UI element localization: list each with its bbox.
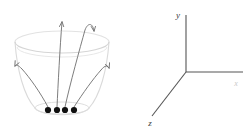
funnel-wall-left <box>15 42 35 108</box>
funnel-base-ellipse <box>35 102 89 114</box>
figure-root: y x z <box>0 0 244 132</box>
trajectory-left-outer <box>15 65 48 107</box>
particle-dots <box>45 107 77 113</box>
trajectory-center-straight <box>57 22 62 107</box>
funnel-wall-right <box>89 42 109 108</box>
funnel-panel <box>15 22 109 115</box>
funnel-rim-inner <box>17 47 107 57</box>
axis-z-label: z <box>147 118 152 128</box>
axis-y-label: y <box>175 10 180 20</box>
particle-dot <box>62 107 68 113</box>
axis-x-label: x <box>233 79 238 88</box>
axis-z-line <box>152 72 186 116</box>
axes-panel: y x z <box>147 10 243 128</box>
funnel-rim-back <box>15 31 109 42</box>
figure-canvas: y x z <box>0 0 244 132</box>
trajectory-right-outer <box>74 66 109 107</box>
particle-dot <box>54 107 60 113</box>
trajectory-arrows <box>15 22 109 107</box>
particle-dot <box>45 107 51 113</box>
trajectory-center-curving <box>65 24 94 107</box>
funnel-rim-front <box>15 42 109 53</box>
particle-dot <box>71 107 77 113</box>
